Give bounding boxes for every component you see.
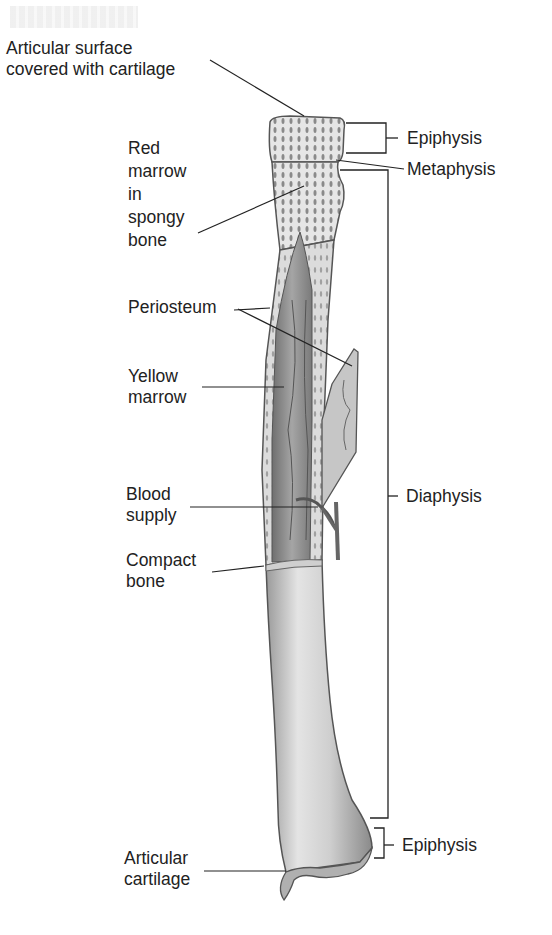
label-line: in — [128, 183, 186, 206]
label-line: cartilage — [124, 869, 190, 890]
label-line: Articular surface — [6, 38, 175, 59]
label-epiphysis-proximal: Epiphysis — [407, 128, 482, 149]
label-periosteum: Periosteum — [128, 297, 217, 318]
label-diaphysis: Diaphysis — [406, 486, 482, 507]
label-line: bone — [126, 571, 196, 592]
label-red-marrow: Red marrow in spongy bone — [128, 137, 186, 252]
label-line: Blood — [126, 484, 177, 505]
periosteum-flap — [322, 349, 358, 508]
label-line: supply — [126, 505, 177, 526]
label-line: spongy — [128, 206, 186, 229]
label-epiphysis-distal: Epiphysis — [402, 835, 477, 856]
label-metaphysis: Metaphysis — [407, 159, 496, 180]
sectioned-shaft — [262, 232, 334, 565]
label-articular-surface: Articular surface covered with cartilage — [6, 38, 175, 80]
label-line: Red — [128, 137, 186, 160]
label-line: bone — [128, 229, 186, 252]
leader-compact-bone — [212, 566, 264, 572]
label-line: Periosteum — [128, 297, 217, 318]
label-line: Yellow — [128, 366, 186, 387]
label-line: marrow — [128, 160, 186, 183]
brackets — [340, 123, 398, 858]
label-yellow-marrow: Yellow marrow — [128, 366, 186, 408]
label-articular-cartilage: Articular cartilage — [124, 848, 190, 890]
bracket-diaphysis — [340, 170, 388, 818]
label-line: Articular — [124, 848, 190, 869]
intact-shaft — [266, 560, 372, 872]
label-line: Compact — [126, 550, 196, 571]
proximal-epiphysis — [269, 116, 344, 250]
bone-diagram: Articular surface covered with cartilage… — [0, 0, 552, 935]
leader-articular-surface — [210, 60, 304, 116]
bracket-epiphysis-proximal — [346, 123, 386, 153]
label-line: covered with cartilage — [6, 59, 175, 80]
leader-metaphysis — [336, 160, 404, 169]
bracket-epiphysis-distal — [374, 828, 384, 858]
label-compact-bone: Compact bone — [126, 550, 196, 592]
label-blood-supply: Blood supply — [126, 484, 177, 526]
label-line: marrow — [128, 387, 186, 408]
